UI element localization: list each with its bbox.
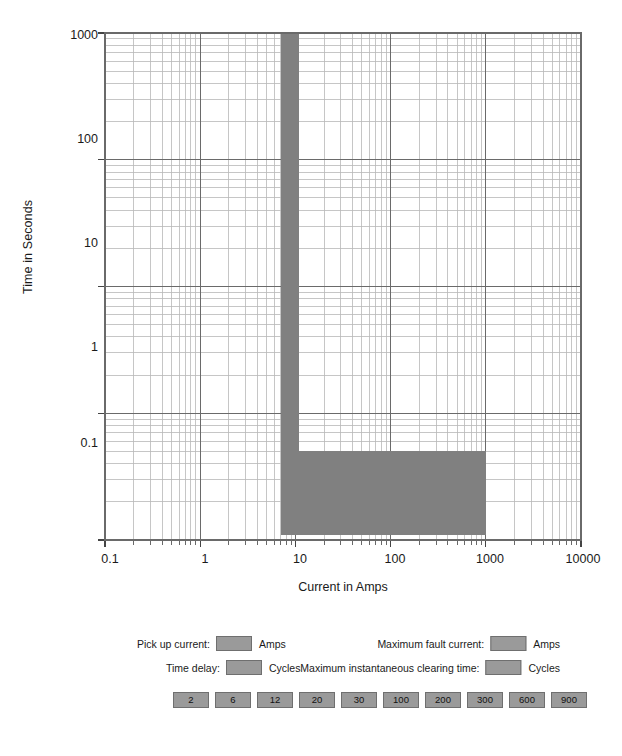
legend-row-pick-up-current: Pick up current: Amps (137, 636, 286, 651)
legend-value-box-maximum-fault-current[interactable] (490, 636, 526, 651)
cycle-preset-button[interactable]: 30 (341, 692, 377, 708)
legend: Pick up current: Amps Time delay: Cycles… (0, 628, 622, 756)
legend-row-maximum-fault-current: Maximum fault current: Amps (377, 636, 560, 651)
legend-unit-maximum-instantaneous-clearing-time: Cycles (528, 662, 560, 674)
legend-unit-time-delay: Cycles (269, 662, 301, 674)
cycle-preset-button[interactable]: 600 (509, 692, 545, 708)
cycle-preset-buttons: 26122030100200300600900 (173, 692, 587, 708)
clearing-band-region (281, 33, 486, 535)
cycle-preset-button[interactable]: 12 (257, 692, 293, 708)
legend-label-maximum-fault-current: Maximum fault current: (377, 638, 484, 650)
cycle-preset-button[interactable]: 100 (383, 692, 419, 708)
legend-label-pick-up-current: Pick up current: (137, 638, 210, 650)
legend-value-box-maximum-instantaneous-clearing-time[interactable] (485, 660, 521, 675)
legend-label-maximum-instantaneous-clearing-time: Maximum instantaneous clearing time: (300, 662, 479, 674)
cycle-preset-button[interactable]: 900 (551, 692, 587, 708)
tcc-chart-root: Time in Seconds 1000 100 10 1 0.1 0.1 1 … (0, 0, 622, 756)
plot-svg (0, 0, 622, 620)
legend-value-box-pick-up-current[interactable] (216, 636, 252, 651)
plot-area: Time in Seconds 1000 100 10 1 0.1 0.1 1 … (0, 0, 622, 620)
legend-row-maximum-instantaneous-clearing-time: Maximum instantaneous clearing time: Cyc… (300, 660, 560, 675)
legend-unit-maximum-fault-current: Amps (533, 638, 560, 650)
cycle-preset-button[interactable]: 2 (173, 692, 209, 708)
legend-label-time-delay: Time delay: (166, 662, 220, 674)
cycle-preset-button[interactable]: 6 (215, 692, 251, 708)
cycle-preset-button[interactable]: 300 (467, 692, 503, 708)
cycle-preset-button[interactable]: 200 (425, 692, 461, 708)
cycle-preset-button[interactable]: 20 (299, 692, 335, 708)
legend-unit-pick-up-current: Amps (259, 638, 286, 650)
legend-value-box-time-delay[interactable] (226, 660, 262, 675)
legend-row-time-delay: Time delay: Cycles (166, 660, 300, 675)
